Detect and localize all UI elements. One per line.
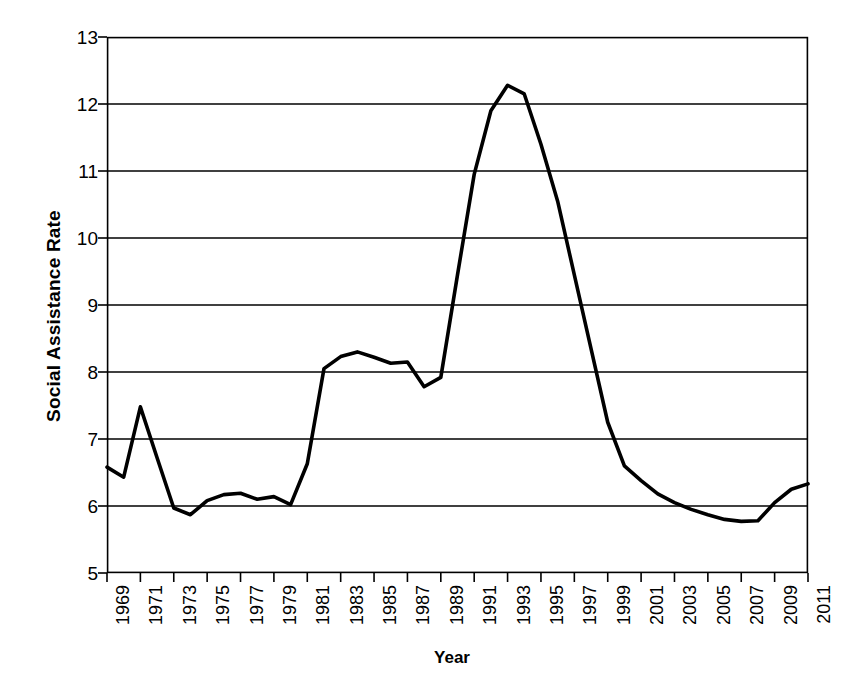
x-tick-label: 2009 [782, 585, 800, 625]
x-tick-label: 1991 [481, 585, 499, 625]
y-tick-label: 6 [87, 497, 107, 516]
y-tick-label: 8 [87, 363, 107, 382]
x-tick-label: 2007 [748, 585, 766, 625]
plot-area: 1312111098765 19691971197319751977197919… [107, 37, 808, 573]
line-chart: Social Assistance Rate 1312111098765 196… [0, 0, 842, 687]
y-tick-label: 10 [77, 229, 107, 248]
x-tick-label: 1983 [348, 585, 366, 625]
x-tick-label: 1985 [381, 585, 399, 625]
x-tick-label: 1981 [314, 585, 332, 625]
y-tick-label: 13 [77, 28, 107, 47]
x-tick-label: 1969 [114, 585, 132, 625]
x-tick-label: 2005 [715, 585, 733, 625]
x-axis-title: Year [95, 648, 809, 668]
x-tick-label: 1999 [615, 585, 633, 625]
x-tick-label: 1975 [214, 585, 232, 625]
x-tick-label: 1995 [548, 585, 566, 625]
gridlines [107, 104, 808, 506]
x-tick-label: 1989 [448, 585, 466, 625]
x-tick-label: 1993 [515, 585, 533, 625]
y-tick-label: 11 [78, 162, 107, 181]
x-tick-label: 1971 [147, 585, 165, 625]
y-axis-title: Social Assistance Rate [36, 36, 72, 596]
x-tick-label: 2001 [648, 585, 666, 625]
x-tick-label: 1973 [181, 585, 199, 625]
y-tick-label: 5 [87, 564, 107, 583]
y-tick-label: 9 [87, 296, 107, 315]
chart-canvas [107, 37, 808, 573]
y-tick-label: 7 [87, 430, 107, 449]
x-tick-label: 1979 [281, 585, 299, 625]
x-tick-label: 2003 [681, 585, 699, 625]
data-series-line [107, 85, 808, 521]
x-tick-label: 1977 [248, 585, 266, 625]
y-tick-label: 12 [77, 95, 107, 114]
x-tick-label: 1987 [414, 585, 432, 625]
x-tick-label: 2011 [815, 585, 833, 624]
x-tick-label: 1997 [581, 585, 599, 625]
